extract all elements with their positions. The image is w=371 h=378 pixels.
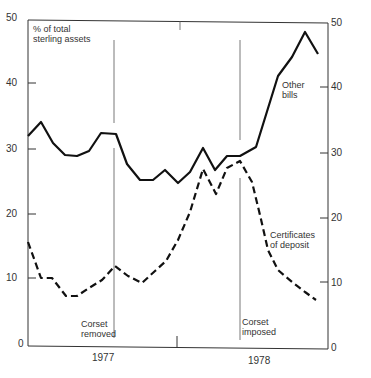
left-tick-20: 20 (6, 208, 17, 219)
corset-removed-label-1: Corset (81, 319, 108, 329)
x-tick-1977: 1977 (92, 352, 114, 363)
y-axis-title-2: sterling assets (33, 34, 91, 44)
other-bills-label-2: bills (282, 90, 298, 100)
left-tick-50: 50 (6, 12, 17, 23)
corset-removed-label-2: removed (81, 329, 116, 339)
left-tick-marks (28, 83, 36, 278)
top-border (28, 20, 328, 23)
left-tick-10: 10 (6, 272, 17, 283)
x-tick-1978: 1978 (248, 355, 270, 366)
right-tick-0: 0 (331, 342, 337, 353)
corset-imposed-label-1: Corset (242, 317, 269, 327)
right-tick-40: 40 (331, 81, 342, 92)
x-axis (28, 346, 328, 349)
other-bills-line (28, 32, 318, 183)
left-tick-40: 40 (6, 77, 17, 88)
chart-svg (0, 0, 371, 378)
right-tick-30: 30 (331, 147, 342, 158)
cd-label-1: Certificates (270, 230, 315, 240)
y-axis-title-1: % of total (33, 24, 71, 34)
other-bills-label-1: Other (282, 80, 305, 90)
right-tick-50: 50 (331, 17, 342, 28)
right-tick-10: 10 (331, 277, 342, 288)
left-tick-0: 0 (18, 338, 24, 349)
cd-label-2: of deposit (270, 240, 309, 250)
right-tick-marks (320, 87, 328, 282)
right-tick-20: 20 (331, 212, 342, 223)
corset-imposed-label-2: imposed (242, 327, 276, 337)
left-tick-30: 30 (6, 143, 17, 154)
